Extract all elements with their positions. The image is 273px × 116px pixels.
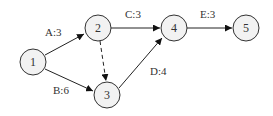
edge-2-3-dummy <box>100 41 106 81</box>
node-3-label: 3 <box>104 88 110 102</box>
node-1-label: 1 <box>30 55 36 69</box>
node-2-label: 2 <box>95 21 101 35</box>
edge-label-d: D:4 <box>150 65 167 77</box>
node-1: 1 <box>20 49 46 75</box>
edge-label-b: B:6 <box>53 84 69 96</box>
node-4-label: 4 <box>171 21 177 35</box>
edge-label-e: E:3 <box>200 8 216 20</box>
node-3: 3 <box>94 82 120 108</box>
node-4: 4 <box>161 15 187 41</box>
edge-3-4 <box>119 38 162 88</box>
node-2: 2 <box>85 15 111 41</box>
network-diagram: A:3 B:6 C:3 D:4 E:3 1 2 3 4 5 <box>0 0 273 116</box>
node-5-label: 5 <box>243 21 249 35</box>
edge-label-a: A:3 <box>45 26 62 38</box>
node-5: 5 <box>233 15 259 41</box>
edge-label-c: C:3 <box>125 8 141 20</box>
